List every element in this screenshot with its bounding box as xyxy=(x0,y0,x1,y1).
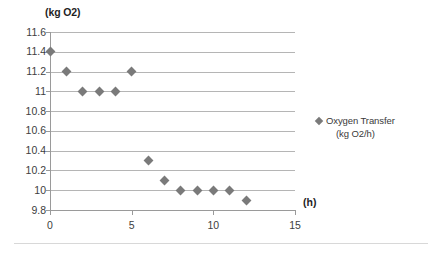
gridline-y xyxy=(50,131,295,132)
diamond-marker-icon xyxy=(315,117,323,125)
x-tick-mark xyxy=(132,210,133,215)
y-tick-label: 11.4 xyxy=(6,46,46,57)
x-tick-mark xyxy=(295,210,296,215)
legend: Oxygen Transfer (kg O2/h) xyxy=(316,114,442,140)
y-tick-label: 11.2 xyxy=(6,66,46,77)
y-tick-label: 10.4 xyxy=(6,145,46,156)
y-tick-mark xyxy=(46,91,50,92)
y-tick-mark xyxy=(46,131,50,132)
gridline-y xyxy=(50,72,295,73)
x-tick-label: 15 xyxy=(280,220,310,231)
y-tick-label: 10.6 xyxy=(6,125,46,136)
y-tick-label: 11.6 xyxy=(6,27,46,38)
bottom-divider xyxy=(14,243,428,244)
y-tick-label: 11 xyxy=(6,86,46,97)
y-tick-mark xyxy=(46,151,50,152)
gridline-y xyxy=(50,52,295,53)
gridline-y xyxy=(50,151,295,152)
legend-label-line1: Oxygen Transfer xyxy=(326,114,395,127)
gridline-y xyxy=(50,170,295,171)
x-tick-label: 10 xyxy=(198,220,228,231)
y-axis-line xyxy=(50,32,51,210)
gridline-y xyxy=(50,190,295,191)
y-tick-label: 9.8 xyxy=(6,205,46,216)
legend-item-oxygen-transfer: Oxygen Transfer xyxy=(316,114,442,127)
y-tick-label: 10.8 xyxy=(6,106,46,117)
legend-label-line2: (kg O2/h) xyxy=(336,127,442,140)
x-axis-title: (h) xyxy=(303,196,316,208)
y-tick-mark xyxy=(46,72,50,73)
y-tick-label: 10 xyxy=(6,185,46,196)
x-tick-mark xyxy=(50,210,51,215)
gridline-y xyxy=(50,111,295,112)
y-tick-mark xyxy=(46,111,50,112)
gridline-y xyxy=(50,32,295,33)
oxygen-transfer-scatter-chart: (kg O2) (h) 9.81010.210.410.610.81111.21… xyxy=(0,0,442,258)
y-tick-mark xyxy=(46,170,50,171)
plot-area xyxy=(50,32,295,210)
x-tick-mark xyxy=(213,210,214,215)
y-tick-label: 10.2 xyxy=(6,165,46,176)
x-tick-label: 0 xyxy=(35,220,65,231)
gridline-y xyxy=(50,210,295,211)
x-tick-label: 5 xyxy=(117,220,147,231)
y-tick-mark xyxy=(46,32,50,33)
y-tick-mark xyxy=(46,190,50,191)
y-axis-title: (kg O2) xyxy=(45,6,80,18)
